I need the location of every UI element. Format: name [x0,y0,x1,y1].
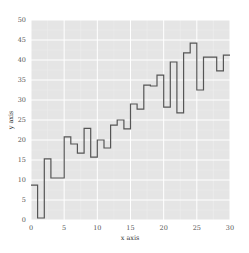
x-tick-label: 25 [193,224,201,232]
y-tick-label: 25 [18,116,26,124]
x-tick-label: 15 [126,224,134,232]
y-axis-label: y axis [7,111,15,131]
x-tick-label: 5 [62,224,66,232]
y-tick-label: 45 [18,36,26,44]
y-tick-label: 40 [18,56,26,64]
y-tick-label: 50 [18,16,26,24]
y-tick-label: 10 [18,176,26,184]
x-tick-label: 10 [93,224,101,232]
y-tick-label: 20 [18,136,26,144]
y-axis-ticks: 05101520253035404550 [18,16,26,224]
y-tick-label: 0 [22,216,26,224]
y-tick-label: 15 [18,156,26,164]
step-chart: 05101520253035404550 051015202530 x axis… [0,0,249,253]
y-tick-label: 5 [22,196,26,204]
y-tick-label: 30 [18,96,26,104]
x-tick-label: 0 [29,224,33,232]
x-tick-label: 20 [160,224,168,232]
x-axis-label: x axis [121,234,140,242]
x-axis-ticks: 051015202530 [29,224,234,232]
x-tick-label: 30 [226,224,234,232]
y-tick-label: 35 [18,76,26,84]
